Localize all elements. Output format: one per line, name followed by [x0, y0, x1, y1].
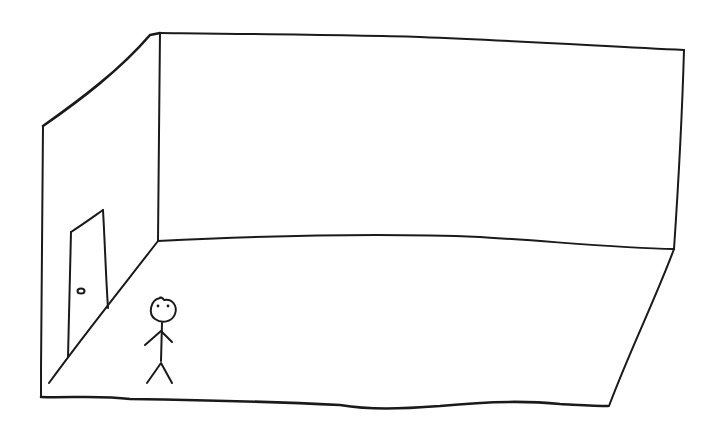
stick-figure-head	[151, 297, 176, 321]
stick-figure-right-eye	[167, 305, 170, 308]
floor	[41, 241, 674, 409]
back-wall	[158, 33, 684, 249]
stick-figure-left-eye	[157, 305, 160, 308]
stick-figure-body	[161, 323, 162, 361]
stick-figure-legs	[147, 363, 172, 383]
stick-figure	[145, 297, 176, 383]
left-wall	[41, 33, 160, 397]
door-knob	[78, 288, 85, 293]
stick-figure-arms	[145, 331, 172, 345]
room-sketch	[0, 0, 720, 431]
door	[68, 210, 108, 357]
